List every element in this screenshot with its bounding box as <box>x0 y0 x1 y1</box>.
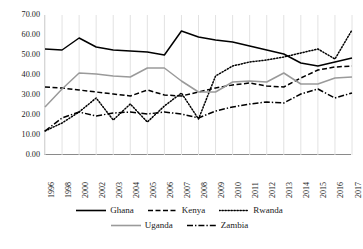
legend-swatch-rwanda-icon <box>219 206 249 215</box>
legend-row-secondary: UgandaZambia <box>111 221 249 230</box>
x-axis-tick: 2007 <box>184 182 192 198</box>
x-axis-tick: 2003 <box>116 182 124 198</box>
x-axis-tick: 2008 <box>201 182 209 198</box>
y-axis-tick: 60.00 <box>22 31 40 39</box>
y-axis-tick: 20.00 <box>22 111 40 119</box>
plot-svg <box>45 15 352 155</box>
y-axis-tick: 30.00 <box>22 91 40 99</box>
legend-swatch-kenya-icon <box>148 206 178 215</box>
legend-swatch-zambia-icon <box>187 221 217 230</box>
y-axis-tick: 10.00 <box>22 131 40 139</box>
legend-item-rwanda[interactable]: Rwanda <box>219 206 283 215</box>
x-axis-tick: 2015 <box>320 182 328 198</box>
x-axis-tick: 2013 <box>286 182 294 198</box>
legend-label: Uganda <box>145 221 173 230</box>
legend-item-zambia[interactable]: Zambia <box>187 221 249 230</box>
x-axis-tick: 2010 <box>235 182 243 198</box>
y-axis-tick: 40.00 <box>22 71 40 79</box>
x-axis-tick: 2002 <box>99 182 107 198</box>
x-axis-tick: 2000 <box>82 182 90 198</box>
legend-row-primary: GhanaKenyaRwanda <box>76 206 283 215</box>
plot-area <box>44 15 351 155</box>
legend-label: Ghana <box>110 206 134 215</box>
x-axis-tick: 2011 <box>252 182 260 198</box>
x-axis-tick: 2009 <box>218 182 226 198</box>
y-axis-tick: 70.00 <box>22 11 40 19</box>
x-axis-tick: 2006 <box>167 182 175 198</box>
x-axis-tick: 1998 <box>65 182 73 198</box>
legend-label: Rwanda <box>253 206 283 215</box>
y-axis: 70.0060.0050.0040.0030.0020.0010.000.00 <box>0 0 44 170</box>
legend-item-uganda[interactable]: Uganda <box>111 221 173 230</box>
x-axis-tick: 2012 <box>269 182 277 198</box>
x-axis-tick: 2004 <box>133 182 141 198</box>
y-axis-tick: 0.00 <box>26 151 40 159</box>
x-axis-tick: 1996 <box>48 182 56 198</box>
x-axis-tick: 2016 <box>337 182 345 198</box>
legend-label: Kenya <box>182 206 206 215</box>
x-axis-tick: 2005 <box>150 182 158 198</box>
legend-label: Zambia <box>221 221 249 230</box>
legend-swatch-uganda-icon <box>111 221 141 230</box>
x-axis-tick: 2017 <box>355 182 363 198</box>
vertical-gridlines <box>45 15 352 155</box>
legend-item-kenya[interactable]: Kenya <box>148 206 206 215</box>
legend-item-ghana[interactable]: Ghana <box>76 206 134 215</box>
y-axis-tick: 50.00 <box>22 51 40 59</box>
x-axis: 1996199820002002200320042005200620072008… <box>44 156 351 202</box>
x-axis-tick: 2014 <box>303 182 311 198</box>
legend-swatch-ghana-icon <box>76 206 106 215</box>
chart-legend: GhanaKenyaRwanda UgandaZambia <box>0 204 359 249</box>
